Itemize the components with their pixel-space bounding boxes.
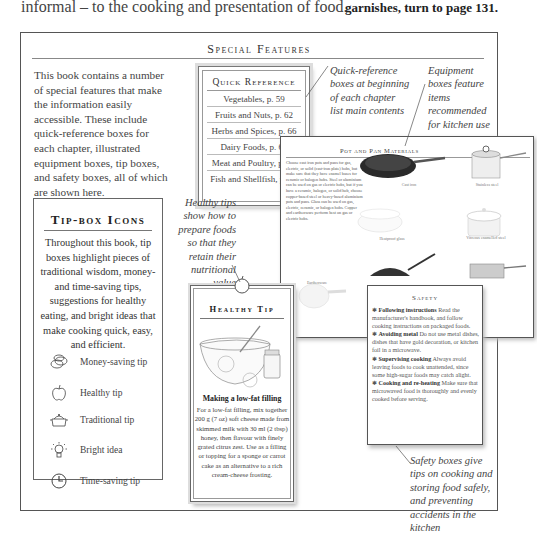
leader-lines	[0, 0, 537, 534]
